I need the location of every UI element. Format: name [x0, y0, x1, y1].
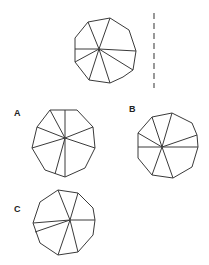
- spoke-line: [50, 110, 65, 138]
- spoke-line: [162, 113, 172, 147]
- spoke-line: [32, 138, 65, 148]
- spoke-line: [99, 49, 136, 51]
- option-b-shape[interactable]: [138, 113, 198, 178]
- original-decagon: [75, 18, 136, 83]
- spoke-line: [37, 127, 65, 138]
- spoke-line: [99, 18, 110, 49]
- spoke-line: [55, 138, 65, 174]
- spoke-line: [70, 220, 78, 252]
- spoke-line: [58, 220, 70, 255]
- decagon-outline: [138, 113, 198, 178]
- spoke-line: [65, 127, 93, 138]
- option-a-shape[interactable]: [32, 110, 95, 177]
- spoke-line: [99, 49, 133, 70]
- option-b-label: B: [129, 104, 136, 114]
- spoke-line: [58, 190, 70, 220]
- spoke-line: [99, 49, 110, 83]
- option-c-label: C: [14, 204, 21, 214]
- option-a-label: A: [14, 108, 21, 118]
- spoke-line: [162, 135, 197, 147]
- spoke-line: [70, 193, 78, 220]
- spoke-line: [152, 147, 162, 175]
- option-c-shape[interactable]: [33, 190, 95, 255]
- spoke-line: [65, 138, 95, 148]
- spoke-line: [162, 147, 173, 178]
- reflection-diagram: A B C: [0, 0, 209, 265]
- spoke-line: [88, 22, 99, 49]
